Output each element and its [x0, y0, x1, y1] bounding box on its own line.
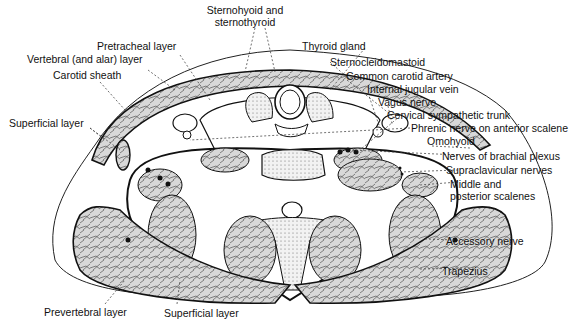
label-accessory-nerve: Accessory nerve: [446, 235, 524, 247]
label-sternohyoid: Sternohyoid and sternothyroid: [190, 4, 300, 28]
label-vertebral-layer: Vertebral (and alar) layer: [27, 53, 143, 65]
label-vagus-nerve: Vagus nerve: [378, 96, 436, 108]
thyroid-right: [306, 93, 333, 122]
label-superficial-layer-bottom: Superficial layer: [164, 307, 239, 319]
label-superficial-layer-left: Superficial layer: [9, 117, 84, 129]
label-brachial-plexus: Nerves of brachial plexus: [442, 150, 560, 162]
platysma-left: [116, 140, 130, 170]
longus-left: [201, 148, 249, 172]
label-pretracheal: Pretracheal layer: [97, 40, 176, 52]
label-thyroid-gland: Thyroid gland: [302, 40, 366, 52]
thyroid-left: [246, 93, 273, 122]
label-scalenes: Middle and posterior scalenes: [450, 178, 535, 202]
accessory-nerve-left: [126, 238, 131, 243]
label-phrenic-nerve: Phrenic nerve on anterior scalene: [411, 122, 568, 134]
label-sympathetic-trunk: Cervical sympathetic trunk: [387, 109, 510, 121]
label-sternocleidomastoid: Sternocleidomastoid: [330, 56, 425, 68]
label-carotid-sheath: Carotid sheath: [53, 69, 121, 81]
scalene-right: [338, 159, 402, 191]
scalene-right-2: [402, 173, 438, 197]
label-common-carotid: Common carotid artery: [346, 70, 453, 82]
label-prevertebral-layer: Prevertebral layer: [44, 306, 127, 318]
vertebral-body: [262, 150, 325, 181]
label-supraclavicular: Supraclavicular nerves: [446, 164, 552, 176]
label-omohyoid: Omohyoid: [427, 135, 475, 147]
label-trapezius: Trapezius: [442, 265, 488, 277]
spinal-cord: [282, 202, 302, 218]
trachea-inner: [280, 90, 300, 114]
carotid-sheath-left: [173, 114, 197, 132]
label-internal-jugular: Internal jugular vein: [367, 83, 459, 95]
